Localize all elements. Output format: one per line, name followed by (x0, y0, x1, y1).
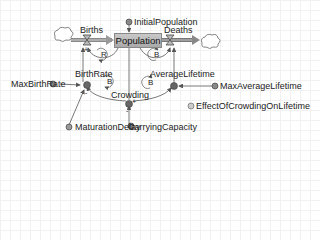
maxbirthrate-label: MaxBirthRate (11, 79, 66, 89)
polarity-minus-carrying: - (126, 106, 128, 116)
maxaveragelifetime-parameter-icon[interactable] (212, 83, 218, 89)
polarity-plus-births: + (84, 45, 88, 55)
initialpopulation-label: InitialPopulation (134, 17, 198, 27)
carryingcapacity-label: CarryingCapacity (128, 122, 197, 132)
link-maturationdelay-birthrate (69, 90, 84, 125)
initialpopulation-parameter-icon[interactable] (126, 19, 132, 25)
population-stock[interactable]: Population (114, 33, 162, 48)
maturationdelay-parameter-icon[interactable] (66, 124, 72, 130)
averagelifetime-aux-icon[interactable] (171, 83, 178, 90)
sink-cloud-icon (201, 34, 220, 48)
loop-label-b-birthrate: B (107, 77, 112, 87)
crowding-label: Crowding (111, 90, 149, 100)
loop-label-r: R (101, 50, 107, 60)
loop-label-b-crowding: B (148, 78, 153, 88)
source-cloud-icon (54, 27, 73, 41)
effectofcrowding-tablefunction-icon[interactable] (188, 103, 194, 109)
effectofcrowding-label: EffectOfCrowdingOnLifetime (196, 101, 310, 111)
loop-label-b-deaths: B (154, 50, 159, 60)
averagelifetime-label: AverageLifetime (150, 69, 215, 79)
maxaveragelifetime-label: MaxAverageLifetime (220, 81, 302, 91)
polarity-plus-crowding: + (132, 97, 136, 107)
polarity-minus-birthrate: - (85, 88, 87, 98)
births-flow-label: Births (80, 25, 103, 35)
births-flow-pipe[interactable] (71, 35, 114, 45)
